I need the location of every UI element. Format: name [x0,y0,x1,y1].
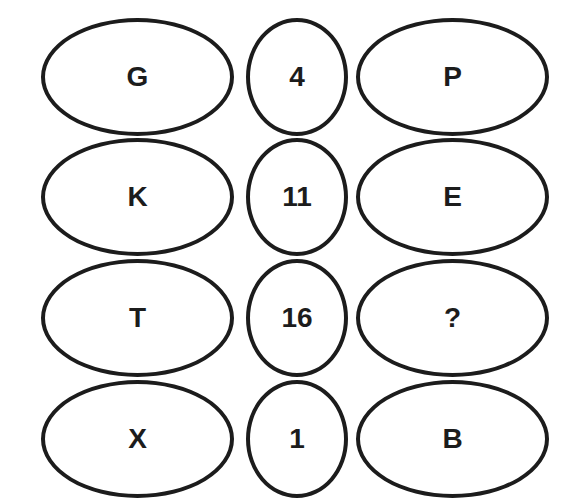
left-ellipse-row-2: K [41,138,234,256]
left-ellipse-row-3: T [41,259,234,377]
right-ellipse-row-2: E [356,138,549,256]
letter-number-puzzle: G 4 P K 11 E T 16 ? X 1 B [0,0,574,503]
middle-ellipse-row-4: 1 [246,380,348,498]
middle-ellipse-row-3: 16 [246,259,348,377]
middle-ellipse-row-2: 11 [246,138,348,256]
unknown-answer-ellipse: ? [356,259,549,377]
left-ellipse-row-1: G [41,18,234,136]
left-ellipse-row-4: X [41,380,234,498]
right-ellipse-row-1: P [356,18,549,136]
right-ellipse-row-4: B [356,380,549,498]
middle-ellipse-row-1: 4 [246,18,348,136]
